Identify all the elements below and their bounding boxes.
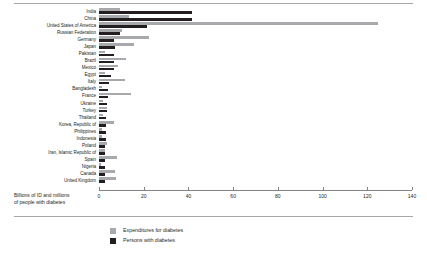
bar-group (99, 64, 412, 71)
bar-group (99, 142, 412, 149)
bar-persons (99, 152, 105, 155)
bar-persons (99, 46, 115, 49)
category-label: Philippines (0, 128, 96, 135)
bar-group (99, 57, 412, 64)
bar-persons (99, 138, 106, 141)
bar-group (99, 78, 412, 85)
x-axis-title-line: Billions of ID and millions (14, 192, 100, 199)
bottom-rule (14, 216, 413, 217)
bar-group (99, 15, 412, 22)
category-label: Russian Federation (0, 29, 96, 36)
category-label: Turkey (0, 107, 96, 114)
x-axis-tick (99, 187, 100, 190)
category-label: Indonesia (0, 135, 96, 142)
bar-persons (99, 96, 108, 99)
bar-persons (99, 110, 107, 113)
bar-group (99, 92, 412, 99)
category-label: Mexico (0, 64, 96, 71)
bar-persons (99, 124, 106, 127)
x-axis-title: Billions of ID and millionsof people wit… (14, 192, 100, 206)
bar-group (99, 149, 412, 156)
bar-persons (99, 131, 106, 134)
bar-group (99, 128, 412, 135)
category-label: Nigeria (0, 163, 96, 170)
x-axis-tick (323, 187, 324, 190)
category-label: Spain (0, 156, 96, 163)
x-axis-tick-label: 140 (402, 193, 422, 199)
bar-group (99, 100, 412, 107)
category-label: India (0, 8, 96, 15)
category-label: France (0, 92, 96, 99)
bar-persons (99, 32, 120, 35)
x-axis-tick (144, 187, 145, 190)
bar-group (99, 22, 412, 29)
category-label: Canada (0, 170, 96, 177)
category-label: United States of America (0, 22, 96, 29)
bar-persons (99, 18, 192, 21)
category-label: Poland (0, 142, 96, 149)
category-label: United Kingdom (0, 177, 96, 184)
bar-group (99, 121, 412, 128)
bar-group (99, 50, 412, 57)
bar-group (99, 85, 412, 92)
bar-persons (99, 103, 107, 106)
bar-persons (99, 25, 147, 28)
x-axis-tick (188, 187, 189, 190)
legend-swatch-exp (110, 228, 116, 234)
x-axis-tick-label: 80 (268, 193, 288, 199)
bar-persons (99, 89, 108, 92)
bar-persons (99, 180, 105, 183)
bar-persons (99, 159, 105, 162)
bar-persons (99, 11, 192, 14)
bar-persons (99, 166, 105, 169)
x-axis-tick-label: 120 (357, 193, 377, 199)
bar-persons (99, 39, 114, 42)
bar-group (99, 8, 412, 15)
x-axis-tick-label: 40 (178, 193, 198, 199)
bar-group (99, 170, 412, 177)
bar-persons (99, 75, 111, 78)
category-label: Egypt (0, 71, 96, 78)
x-axis-tick-label: 100 (313, 193, 333, 199)
bar-persons (99, 61, 114, 64)
bar-group (99, 36, 412, 43)
x-axis-tick-label: 60 (223, 193, 243, 199)
legend-label: Persons with diabetes (123, 236, 175, 245)
bar-group (99, 43, 412, 50)
diabetes-expenditure-chart: IndiaChinaUnited States of AmericaRussia… (0, 0, 427, 271)
bar-persons (99, 54, 114, 57)
category-label: Iran, Islamic Republic of (0, 149, 96, 156)
category-label: Ukraine (0, 100, 96, 107)
legend-label: Expenditures for diabetes (123, 226, 183, 235)
x-axis-tick (278, 187, 279, 190)
x-axis-line (99, 190, 412, 191)
bar-group (99, 29, 412, 36)
category-label: Thailand (0, 114, 96, 121)
x-axis-tick (412, 187, 413, 190)
bar-group (99, 107, 412, 114)
category-label: Brazil (0, 57, 96, 64)
x-axis-title-line: of people with diabetes (14, 199, 100, 206)
bar-persons (99, 82, 109, 85)
category-label: Germany (0, 36, 96, 43)
x-axis-tick (233, 187, 234, 190)
category-label: China (0, 15, 96, 22)
bar-group (99, 135, 412, 142)
bar-persons (99, 68, 114, 71)
legend-swatch-per (110, 238, 116, 244)
category-label: Japan (0, 43, 96, 50)
plot-area: IndiaChinaUnited States of AmericaRussia… (0, 0, 427, 271)
bar-persons (99, 145, 105, 148)
category-label: Korea, Republic of (0, 121, 96, 128)
bar-group (99, 114, 412, 121)
bar-group (99, 71, 412, 78)
category-label: Pakistan (0, 50, 96, 57)
x-axis-tick-label: 20 (134, 193, 154, 199)
bar-group (99, 177, 412, 184)
category-label: Bangladesh (0, 85, 96, 92)
bar-persons (99, 117, 106, 120)
bar-persons (99, 173, 105, 176)
x-axis-tick (367, 187, 368, 190)
bar-group (99, 156, 412, 163)
bar-group (99, 163, 412, 170)
